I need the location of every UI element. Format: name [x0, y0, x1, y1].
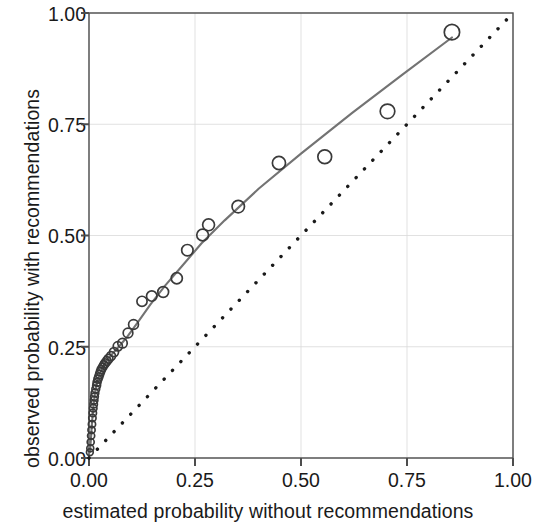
calibration-scatter-figure: observed probability with recommendation… — [0, 0, 536, 527]
plot-area — [0, 0, 536, 527]
fitted-curve — [90, 37, 452, 452]
data-points — [86, 24, 459, 455]
